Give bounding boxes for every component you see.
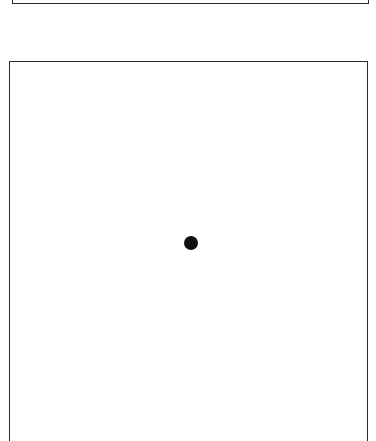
main-frame bbox=[9, 61, 368, 441]
center-point bbox=[184, 236, 198, 250]
top-frame bbox=[12, 0, 369, 4]
